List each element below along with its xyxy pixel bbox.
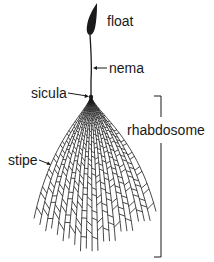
nema-arrow <box>93 66 107 70</box>
stipe-arrow <box>39 160 51 165</box>
stipe-label: stipe <box>8 153 38 167</box>
rhabdosome-label: rhabdosome <box>127 123 205 137</box>
nema-label: nema <box>109 61 144 75</box>
nema-line <box>90 35 91 96</box>
rhabdosome-stipes <box>34 97 156 251</box>
float-shape <box>87 3 97 35</box>
sicula-arrow <box>68 93 89 98</box>
float-label: float <box>107 14 133 28</box>
sicula-label: sicula <box>31 86 67 100</box>
rhabdosome-bracket <box>154 96 161 257</box>
